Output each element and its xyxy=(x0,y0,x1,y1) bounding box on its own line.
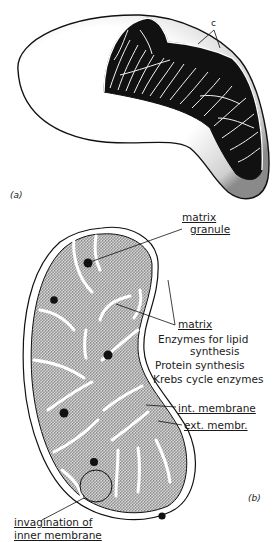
cristae-label: c xyxy=(211,17,216,29)
panel-a-drawing xyxy=(18,15,269,199)
panel-b-label: (b) xyxy=(248,492,261,504)
protein-synthesis-label: Protein synthesis xyxy=(155,359,245,371)
synthesis-label: synthesis xyxy=(190,345,239,357)
matrix-granule-label-line2: granule xyxy=(190,223,230,235)
matrix-granule-label-line1: matrix xyxy=(182,211,216,223)
matrix-label: matrix xyxy=(178,318,212,330)
panel-a-label: (a) xyxy=(10,189,23,201)
krebs-cycle-label: Krebs cycle enzymes xyxy=(153,373,263,385)
invagination-label-line1: invagination of xyxy=(14,516,92,528)
int-membrane-label: int. membrane xyxy=(178,402,256,414)
ext-membrane-label: ext. membr. xyxy=(184,419,248,431)
enzymes-lipid-label: Enzymes for lipid xyxy=(158,333,248,345)
invagination-label-line2: inner membrane xyxy=(14,529,102,541)
mitochondrion-diagram xyxy=(0,0,275,542)
